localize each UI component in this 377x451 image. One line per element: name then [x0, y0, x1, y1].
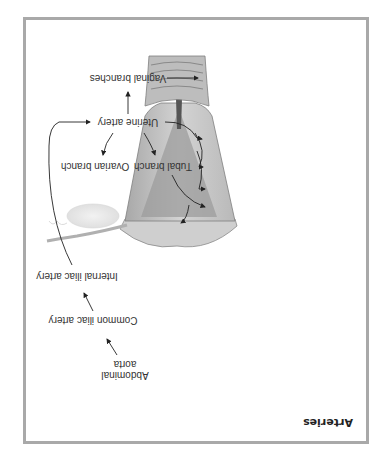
uterus-illustration — [47, 56, 237, 247]
arrow-internal-iliac-to-uterine — [49, 122, 90, 265]
label-aorta-line: aorta — [101, 359, 148, 370]
label-ovarian-branch: Ovarian branch — [61, 161, 129, 172]
arrow-aorta-to-common-iliac — [107, 339, 117, 355]
anatomy-illustration — [0, 0, 377, 451]
label-vaginal-branches: Vaginal branches — [90, 73, 167, 84]
label-tubal-branch: Tubal branch — [134, 161, 192, 172]
diagram-canvas: Abdominal aorta Common iliac artery Inte… — [0, 0, 377, 451]
label-abdominal-aorta: Abdominal aorta — [101, 359, 148, 381]
label-uterine-artery: Uterine artery — [98, 117, 159, 128]
label-abdominal-line: Abdominal — [101, 370, 148, 381]
label-common-iliac-artery: Common iliac artery — [49, 315, 138, 326]
arrow-common-to-internal-iliac — [84, 293, 93, 311]
label-internal-iliac-artery: Internal iliac artery — [36, 271, 118, 282]
arrow-uterine-to-ovarian — [103, 133, 113, 155]
diagram-title: Arteries — [303, 416, 353, 429]
